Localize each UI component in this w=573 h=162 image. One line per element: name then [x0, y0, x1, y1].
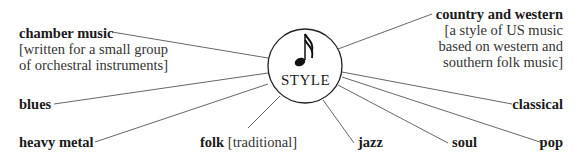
- item-chamber-music: chamber music [written for a small group…: [19, 25, 168, 73]
- term: country and western: [436, 6, 563, 22]
- item-soul: soul: [452, 134, 477, 150]
- gloss-line: southern folk music]: [436, 54, 563, 70]
- term: folk: [200, 134, 224, 150]
- line-folk: [248, 96, 280, 128]
- item-folk: folk [traditional]: [200, 134, 297, 150]
- gloss-line: [a style of US music: [436, 22, 563, 38]
- line-jazz: [323, 100, 354, 143]
- item-pop: pop: [540, 134, 563, 150]
- item-blues: blues: [19, 96, 51, 112]
- line-country-and-western: [338, 14, 432, 49]
- line-classical: [342, 72, 512, 104]
- item-heavy-metal: heavy metal: [19, 134, 94, 150]
- item-classical: classical: [512, 96, 563, 112]
- term: chamber music: [19, 25, 168, 41]
- gloss-line: of orchestral instruments]: [19, 57, 168, 73]
- item-country-and-western: country and western [a style of US music…: [436, 6, 563, 70]
- gloss-line: based on western and: [436, 38, 563, 54]
- line-blues: [54, 73, 268, 104]
- gloss-line: [written for a small group: [19, 41, 168, 57]
- item-jazz: jazz: [358, 134, 383, 150]
- gloss: [traditional]: [228, 134, 297, 150]
- center-label: STYLE: [281, 72, 330, 89]
